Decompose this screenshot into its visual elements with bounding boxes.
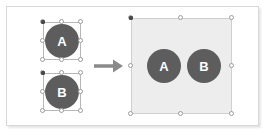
group-handle-bottom-center[interactable] bbox=[178, 111, 183, 116]
handle-middle-right-a[interactable] bbox=[78, 38, 83, 43]
drawing-canvas[interactable]: A B bbox=[7, 7, 258, 125]
handle-top-right-a[interactable] bbox=[78, 19, 83, 24]
group-handle-middle-left[interactable] bbox=[128, 63, 133, 68]
group-shape-circle-a[interactable]: A bbox=[147, 49, 181, 83]
illustration-card: A B bbox=[6, 6, 259, 126]
handle-bottom-right-a[interactable] bbox=[78, 57, 83, 62]
group-handle-top-center[interactable] bbox=[178, 15, 183, 20]
handle-bottom-right-b[interactable] bbox=[78, 108, 83, 113]
handle-top-center-b[interactable] bbox=[59, 70, 64, 75]
shape-circle-a[interactable]: A bbox=[45, 24, 79, 58]
transform-arrow-icon bbox=[94, 58, 124, 74]
shape-label-b: B bbox=[57, 86, 66, 99]
handle-middle-right-b[interactable] bbox=[78, 89, 83, 94]
shape-circle-b[interactable]: B bbox=[45, 75, 79, 109]
group-shape-circle-b[interactable]: B bbox=[187, 49, 221, 83]
group-handle-middle-right[interactable] bbox=[229, 63, 234, 68]
handle-bottom-left-a[interactable] bbox=[40, 57, 45, 62]
handle-top-right-b[interactable] bbox=[78, 70, 83, 75]
handle-top-center-a[interactable] bbox=[59, 19, 64, 24]
group-anchor-point-icon[interactable] bbox=[129, 16, 133, 20]
handle-middle-left-a[interactable] bbox=[40, 38, 45, 43]
handle-middle-left-b[interactable] bbox=[40, 89, 45, 94]
group-handle-bottom-right[interactable] bbox=[229, 111, 234, 116]
shape-label-a: A bbox=[57, 35, 66, 48]
handle-bottom-left-b[interactable] bbox=[40, 108, 45, 113]
screenshot-root: A B bbox=[0, 0, 269, 137]
anchor-point-icon-a[interactable] bbox=[41, 20, 45, 24]
group-shape-label-a: A bbox=[159, 60, 168, 73]
handle-bottom-center-a[interactable] bbox=[59, 57, 64, 62]
handle-bottom-center-b[interactable] bbox=[59, 108, 64, 113]
group-shape-label-b: B bbox=[199, 60, 208, 73]
group-handle-top-right[interactable] bbox=[229, 15, 234, 20]
group-handle-bottom-left[interactable] bbox=[128, 111, 133, 116]
anchor-point-icon-b[interactable] bbox=[41, 71, 45, 75]
